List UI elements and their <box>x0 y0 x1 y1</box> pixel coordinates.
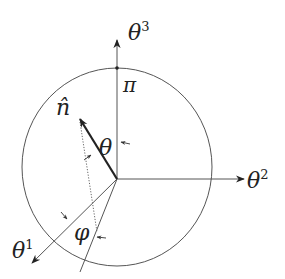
theta2-label: θ2 <box>247 167 269 193</box>
pi-point <box>115 66 119 70</box>
theta-angle-arrow <box>121 142 130 144</box>
spherical-coordinates-diagram: θ3 π θ2 θ1 n̂ θ φ <box>0 0 285 279</box>
theta1-label: θ1 <box>12 237 34 263</box>
phi-angle-arrow-1 <box>61 212 67 219</box>
theta-angle-label: θ <box>99 135 112 160</box>
phi-angle-arrow-2 <box>97 237 106 238</box>
n-hat-label: n̂ <box>56 95 70 120</box>
dotted-projection <box>80 122 97 232</box>
pi-label: π <box>122 73 137 97</box>
phi-angle-label: φ <box>74 220 90 245</box>
theta3-label: θ3 <box>128 19 150 45</box>
